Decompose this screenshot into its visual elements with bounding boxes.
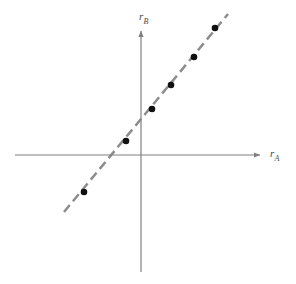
scatter-plot-svg bbox=[0, 0, 296, 284]
x-axis-label: rA bbox=[270, 148, 279, 162]
data-point bbox=[191, 54, 198, 61]
data-point bbox=[212, 25, 219, 32]
data-point bbox=[81, 189, 88, 196]
x-axis-label-subscript: A bbox=[275, 154, 280, 163]
data-point bbox=[149, 106, 156, 113]
data-point bbox=[123, 138, 130, 145]
figure-canvas: rB rA bbox=[0, 0, 296, 284]
data-point bbox=[168, 82, 175, 89]
x-axis-label-symbol: r bbox=[270, 147, 274, 159]
y-axis-label-subscript: B bbox=[144, 17, 149, 26]
y-axis-label-symbol: r bbox=[139, 10, 143, 22]
plot-background bbox=[0, 0, 296, 284]
y-axis-label: rB bbox=[139, 11, 148, 25]
